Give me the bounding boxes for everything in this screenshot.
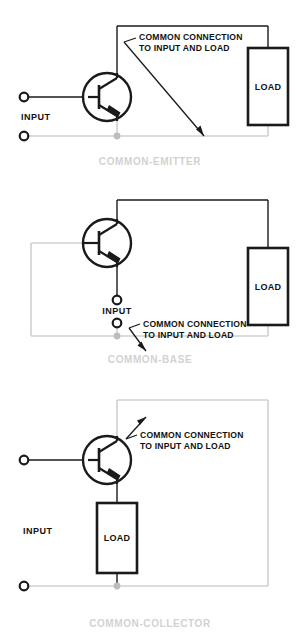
npn-transistor-symbol — [83, 219, 131, 267]
npn-transistor-symbol — [83, 436, 131, 484]
common-collector-junction-dot — [114, 583, 121, 590]
input-terminal-bottom — [20, 132, 29, 141]
input-label: INPUT — [21, 112, 51, 122]
caption-common-collector: COMMON-COLLECTOR — [0, 618, 300, 629]
caption-common-emitter: COMMON-EMITTER — [0, 156, 300, 167]
annotation-line2: TO INPUT AND LOAD — [139, 43, 230, 53]
common-collector-common-rail — [24, 400, 268, 586]
input-terminal-bottom — [20, 582, 29, 591]
common-emitter-schematic: LOAD INPUT COMMON CONNECTION TO INPUT AN… — [0, 0, 300, 175]
common-base-junction-dot — [114, 333, 121, 340]
input-label: INPUT — [102, 306, 132, 316]
circuit-common-emitter: LOAD INPUT COMMON CONNECTION TO INPUT AN… — [0, 0, 300, 175]
input-label: INPUT — [23, 526, 53, 536]
load-label: LOAD — [255, 282, 282, 292]
input-terminal-top — [113, 296, 122, 305]
annotation-line1: COMMON CONNECTION — [140, 430, 244, 440]
input-terminal-top — [20, 93, 29, 102]
load-label: LOAD — [255, 82, 282, 92]
diagram-page: LOAD INPUT COMMON CONNECTION TO INPUT AN… — [0, 0, 300, 644]
annotation-line1: COMMON CONNECTION — [139, 32, 243, 42]
annotation-line1: COMMON CONNECTION — [143, 319, 247, 329]
common-base-schematic: LOAD INPUT COMMON CONNECTION TO INPUT AN… — [0, 186, 300, 372]
caption-common-base: COMMON-BASE — [0, 354, 300, 365]
common-emitter-common-rail — [24, 120, 268, 136]
load-label: LOAD — [104, 533, 131, 543]
circuit-common-base: LOAD INPUT COMMON CONNECTION TO INPUT AN… — [0, 186, 300, 372]
common-emitter-junction-dot — [114, 133, 121, 140]
common-collector-schematic: LOAD INPUT COMMON CONNECTION TO INPUT AN… — [0, 390, 300, 644]
input-terminal-bottom — [113, 319, 122, 328]
common-base-collector-wire — [117, 200, 268, 248]
annotation-line2: TO INPUT AND LOAD — [143, 330, 234, 340]
npn-transistor-symbol — [83, 73, 131, 121]
input-terminal-top — [20, 456, 29, 465]
annotation-line2: TO INPUT AND LOAD — [140, 441, 231, 451]
circuit-common-collector: LOAD INPUT COMMON CONNECTION TO INPUT AN… — [0, 390, 300, 644]
